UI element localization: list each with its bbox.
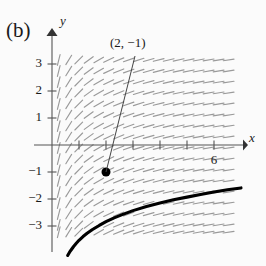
slope-field-dash [193,224,204,226]
slope-field-dash [66,165,72,174]
slope-field-dash [114,146,124,150]
slope-field-dash [57,143,60,154]
y-tick-label: 1 [16,109,42,125]
slope-field-dash [183,92,194,94]
slope-field-dash [66,99,72,108]
slope-field-dash [57,209,60,220]
slope-field-dash [203,59,214,61]
slope-field-dash [84,145,93,152]
slope-field-dash [133,190,144,193]
slope-field-dash [143,135,154,138]
slope-field-dash [163,169,174,171]
slope-field-dash [94,123,104,129]
slope-field-dash [173,81,184,83]
slope-field-dash [153,147,164,150]
slope-field-dash [213,136,224,138]
slope-field-dash [143,125,154,128]
slope-field-dash [213,231,224,233]
y-axis-arrowhead [47,28,58,36]
slope-field-dash [153,103,164,106]
slope-field-dash [114,124,124,128]
slope-field-dash [163,114,174,116]
slope-field-dash [123,190,133,194]
slope-field-dash [57,154,60,165]
slope-field-dash [75,78,83,86]
slope-field-dash [183,103,194,105]
slope-field-dash [183,180,194,182]
slope-field-dash [203,103,214,105]
slope-field-dash [75,199,83,207]
slope-field-dash [114,190,124,194]
slope-field-dash [75,228,83,236]
slope-field-dash [223,147,234,149]
slope-field-dash [213,180,224,182]
slope-field-dash [94,145,104,151]
slope-field-dash [66,176,72,185]
slope-field-dash [94,112,104,118]
slope-field-dash [75,210,83,218]
slope-field-dash [203,202,214,204]
slope-field-dash [123,146,133,150]
slope-field-dash [193,213,204,215]
slope-field-dash [213,125,224,127]
slope-field-dash [153,158,164,161]
slope-field-dash [84,222,93,229]
slope-field-dash [163,191,174,193]
slope-field-dash [213,81,224,83]
slope-field-dash [94,68,104,74]
slope-field-dash [143,70,154,73]
slope-field-dash [57,176,60,187]
slope-field-dash [123,69,133,73]
slope-field-dash [183,147,194,149]
slope-field-dash [84,90,93,97]
slope-field-dash [75,111,83,119]
slope-field-dash [203,169,214,171]
slope-field-dash [223,180,234,182]
slope-field-dash [66,66,72,75]
slope-field-dash [193,81,204,83]
slope-field-dash [223,81,234,83]
solution-curve [68,168,241,256]
slope-field-dash [94,90,104,96]
slope-field-dash [153,81,164,84]
slope-field-dash [173,158,184,160]
slope-field-dash [123,157,133,161]
slope-field-dash [133,135,144,138]
slope-field-dash [84,200,93,207]
slope-field-dash [94,101,104,107]
slope-field-dash [94,79,104,85]
slope-field-dash [104,69,114,74]
slope-field-dash [123,58,133,62]
slope-field-dash [213,224,224,226]
slope-field-dash [183,231,194,233]
slope-field-dash [84,167,93,174]
slope-field-dash [193,103,204,105]
slope-field-dash [114,168,124,172]
panel-label: (b) [6,18,31,43]
slope-field-dash [183,59,194,61]
slope-field-dash [153,114,164,117]
slope-field-dash [57,121,60,132]
slope-field-dash [183,191,194,193]
slope-field-dash [66,187,72,196]
slope-field-dash [203,224,214,226]
slope-field-dash [203,136,214,138]
slope-field-dash [163,136,174,138]
slope-field-dash [84,156,93,163]
slope-field-dash [75,89,83,97]
slope-field-dash [104,91,114,96]
slope-field-dash [143,58,154,61]
slope-field-dash [75,100,83,108]
x-axis-label: x [249,130,255,146]
slope-field-dash [66,55,72,64]
slope-field-dash [104,179,114,184]
slope-field-dash [143,102,154,105]
slope-field-dash [163,81,174,83]
slope-field-dash [94,156,104,162]
slope-field-dash [104,230,114,235]
slope-field-dash [75,177,83,185]
slope-field-dash [163,231,174,233]
slope-field-dash [57,88,60,99]
slope-field-dash [123,230,133,234]
slope-field-dash [66,154,72,163]
